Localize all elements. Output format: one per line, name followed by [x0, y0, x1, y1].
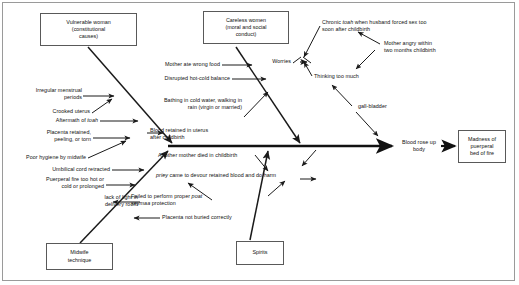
category-box-vulnerable-woman[interactable]: Vulnerable woman (constitutional causes) [40, 13, 137, 46]
failed-poat-suffix: protection [150, 200, 176, 206]
aftermath-toah-italic: toah [87, 117, 98, 123]
subcause-line-bathing-cold-water [244, 92, 268, 117]
label-umbilical-cord-retracted: Umbilical cord retracted [38, 166, 110, 173]
label-blood-retained-in-uterus: Blood retained in uterus after childbirt… [150, 127, 250, 141]
label-thinking-too-much: Thinking too much [314, 73, 394, 80]
aftermath-prefix-text: Aftermath of [56, 117, 88, 123]
effect-box-madness-puerperal[interactable]: Madness of puerperal bed of fire [458, 130, 506, 163]
line-gallbladder-down-to-spine [356, 112, 378, 136]
label-bathing-cold-water: Bathing in cold water, walking in rain (… [150, 97, 242, 111]
line-chronic-toah-to-worries [304, 26, 320, 57]
failed-poat-prefix: Failed to perform proper [131, 193, 192, 199]
label-crooked-uterus: Crooked uterus [20, 108, 90, 115]
line-mother-angry-to-chronic [358, 32, 380, 44]
label-placenta-retained: Placenta retained, peeling, or torn [20, 129, 91, 143]
label-another-mother-died-childbirth: Another mother died in childbirth [158, 152, 268, 159]
line-thinking-too-much-to-worries [304, 62, 312, 76]
label-priey-devour-retained-blood: priey came to devour retained blood and … [156, 172, 316, 179]
line-gallbladder-up-to-thinking [332, 85, 352, 106]
subcause-line-crooked-uterus [92, 99, 112, 113]
label-poor-hygiene-by-midwife: Poor hygiene by midwife [12, 154, 86, 161]
label-mother-ate-wrong-food: Mother ate wrong food [150, 61, 220, 68]
priey-italic-term: priey [156, 172, 168, 178]
priey-rest-text: came to devour retained blood and do har… [168, 172, 276, 178]
label-mother-angry-two-months: Mother angry within two months childbirt… [384, 40, 484, 54]
label-placenta-not-buried-correctly: Placenta not buried correctly [162, 214, 272, 221]
category-box-midwife-technique[interactable]: Midwife technique [46, 243, 113, 270]
label-puerperal-fire: Puerperal fire too hot or cold or prolon… [8, 176, 104, 190]
chronic-toah-italic: toah [342, 19, 353, 25]
subcause-line-poat-connector [268, 181, 285, 196]
fishbone-diagram-canvas: Vulnerable woman (constitutional causes)… [0, 0, 519, 285]
label-blood-rose-up-body: Blood rose up body [394, 139, 444, 153]
label-disrupted-hot-cold-balance: Disrupted hot-cold balance [148, 75, 230, 82]
chronic-prefix: Chronic [322, 19, 342, 25]
subcause-line-priey-arrow [302, 150, 316, 166]
line-mother-angry-down [356, 50, 375, 69]
label-irregular-menstrual-periods: Irregular menstrual periods [12, 87, 82, 101]
subcause-line-poor-hygiene [88, 141, 126, 158]
label-gall-bladder: gall-bladder [358, 103, 408, 110]
label-chronic-toah-forced-sex: Chronic toah when husband forced sex too… [322, 19, 507, 33]
category-box-careless-women[interactable]: Careless women (moral and social conduct… [203, 11, 289, 44]
label-failed-poat-seymaa-protection: Failed to perform proper poat seymaa pro… [131, 193, 241, 207]
category-box-spirits[interactable]: Spirits [236, 241, 284, 265]
label-aftermath-of-toah: Aftermath of toah [28, 117, 98, 124]
label-worries: Worries [263, 58, 291, 65]
branch-worries-to-spine [293, 57, 311, 63]
label-lack-of-light-delivery-room: lack of light in delivery room [72, 194, 138, 208]
rib-spirits [250, 151, 268, 240]
